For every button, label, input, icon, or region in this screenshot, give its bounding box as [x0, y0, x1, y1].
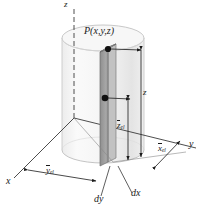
figure-canvas: z y x P(x,y,z) z zel xel yel dy dx: [0, 0, 207, 209]
y-el-subscript: el: [50, 169, 54, 175]
y-el-base: y: [46, 166, 50, 175]
dx-leader: [118, 166, 132, 193]
x-el-subscript: el: [162, 147, 166, 153]
x-el-base: x: [158, 144, 162, 153]
x-el-label: xel: [158, 144, 166, 154]
dim-y-el: [28, 170, 96, 181]
differential-leaders: [101, 166, 132, 196]
dx-label: dx: [131, 188, 140, 198]
z-el-subscript: el: [121, 124, 125, 130]
x-axis-label: x: [6, 176, 10, 186]
y-axis-label: y: [189, 139, 193, 149]
dy-label: dy: [94, 194, 103, 204]
volume-element-column: [100, 44, 116, 166]
z-el-label: zel: [117, 121, 124, 131]
dy-leader: [101, 166, 110, 196]
y-el-label: yel: [46, 166, 54, 176]
z-axis-label: z: [64, 0, 68, 9]
z-height-label: z: [143, 88, 147, 97]
z-el-base: z: [117, 121, 121, 130]
point-P-label: P(x,y,z): [84, 26, 114, 36]
